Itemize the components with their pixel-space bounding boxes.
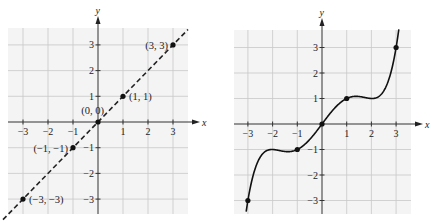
data-point xyxy=(295,147,300,152)
data-point xyxy=(120,94,125,99)
x-axis-arrow-icon xyxy=(192,120,200,125)
point-label: (0, 0) xyxy=(81,105,104,117)
x-tick-label: 1 xyxy=(121,126,126,137)
y-tick-label: −3 xyxy=(307,195,318,206)
data-point xyxy=(344,96,349,101)
y-tick-label: 1 xyxy=(89,91,94,102)
data-point xyxy=(70,145,75,150)
point-label: (−1, −1) xyxy=(33,143,68,155)
y-tick-label: 2 xyxy=(89,65,94,76)
x-tick-label: −3 xyxy=(243,128,254,139)
y-tick-label: 3 xyxy=(313,42,318,53)
y-tick-label: −3 xyxy=(83,194,94,205)
graph-right-curve: xy−3−2−1123321−1−2−3 xyxy=(234,7,430,214)
data-point xyxy=(245,198,250,203)
data-point xyxy=(394,45,399,50)
y-axis-arrow-icon xyxy=(96,16,101,24)
y-tick-label: −2 xyxy=(83,168,94,179)
x-tick-label: −1 xyxy=(68,126,79,137)
two-graphs-figure: xy−3−2−1123321−1−2−3(−3, −3)(−1, −1)(0, … xyxy=(0,0,433,222)
point-label: (3, 3) xyxy=(145,40,168,52)
y-tick-label: 2 xyxy=(313,68,318,79)
data-point xyxy=(95,119,100,124)
y-tick-label: 1 xyxy=(313,93,318,104)
x-tick-label: −1 xyxy=(292,128,303,139)
data-point xyxy=(170,42,175,47)
y-tick-label: −2 xyxy=(307,170,318,181)
point-label: (1, 1) xyxy=(129,91,152,103)
data-point xyxy=(319,121,324,126)
x-tick-label: 1 xyxy=(344,128,349,139)
x-tick-label: 2 xyxy=(369,128,374,139)
data-point xyxy=(20,197,25,202)
y-tick-label: 3 xyxy=(89,39,94,50)
x-tick-label: 2 xyxy=(146,126,151,137)
point-label: (−3, −3) xyxy=(29,194,64,206)
x-axis-arrow-icon xyxy=(415,122,423,127)
y-axis-arrow-icon xyxy=(320,18,325,26)
x-axis-label: x xyxy=(201,117,207,128)
x-tick-label: −2 xyxy=(43,126,54,137)
x-tick-label: −2 xyxy=(267,128,278,139)
x-axis-label: x xyxy=(424,119,430,130)
x-tick-label: 3 xyxy=(171,126,176,137)
y-tick-label: −1 xyxy=(307,144,318,155)
x-tick-label: 3 xyxy=(394,128,399,139)
graph-left-linear: xy−3−2−1123321−1−2−3(−3, −3)(−1, −1)(0, … xyxy=(3,5,207,220)
x-tick-label: −3 xyxy=(18,126,29,137)
y-tick-label: −1 xyxy=(83,142,94,153)
y-axis-label: y xyxy=(319,7,325,18)
y-axis-label: y xyxy=(95,5,101,16)
